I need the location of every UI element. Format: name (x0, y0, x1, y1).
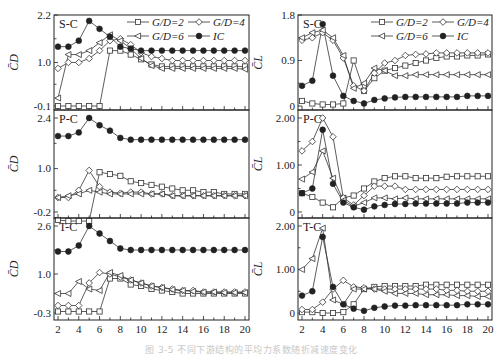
x-axis-label: Ur (145, 339, 159, 340)
x-tick-label: 14 (177, 323, 189, 335)
x-tick-label: 14 (421, 323, 433, 335)
y-axis-label: C̄D (7, 155, 21, 172)
panel-label: P-C (303, 112, 322, 126)
x-tick-label: 20 (240, 323, 252, 335)
x-tick-label: 8 (118, 323, 124, 335)
y-tick-label: 2.00 (276, 112, 296, 124)
panel-label: S-C (303, 17, 322, 31)
figure: -0.11.02.2C̄DS-CG/D=2G/D=4G/D=6IC-0.21.0… (0, 0, 503, 340)
y-tick-label: 0 (290, 100, 296, 112)
panel-label: P-C (59, 112, 78, 126)
x-tick-label: 4 (76, 323, 82, 335)
y-axis-label: C̄D (7, 260, 21, 277)
y-tick-label: 1.0 (37, 162, 51, 174)
x-tick-label: 10 (379, 323, 391, 335)
panel-left-s-c: -0.11.02.2C̄DS-CG/D=2G/D=4G/D=6IC (7, 9, 249, 112)
x-tick-label: 12 (156, 323, 167, 335)
legend-entry: G/D=6 (396, 30, 428, 42)
y-tick-label: 1.8 (281, 9, 295, 21)
legend-entry: G/D=4 (213, 16, 245, 28)
panel-label: T-C (59, 220, 77, 234)
x-tick-label: 2 (299, 323, 305, 335)
series-line (58, 118, 245, 140)
x-tick-label: 20 (483, 323, 495, 335)
y-tick-label: 2.2 (37, 9, 51, 21)
y-axis-label: C̄D (7, 54, 21, 71)
y-tick-label: 1.0 (37, 268, 51, 280)
legend-entry: IC (456, 30, 469, 42)
y-tick-label: 0.9 (281, 54, 295, 66)
y-axis-label: C̄L (251, 55, 265, 70)
x-tick-label: 8 (361, 323, 367, 335)
x-tick-label: 6 (97, 323, 103, 335)
x-tick-label: 10 (136, 323, 148, 335)
y-tick-label: 0 (290, 307, 296, 319)
y-tick-label: -0.3 (34, 307, 52, 319)
x-tick-label: 18 (462, 323, 474, 335)
y-tick-label: -0.1 (34, 100, 51, 112)
x-tick-label: 18 (219, 323, 231, 335)
x-tick-label: 6 (341, 323, 347, 335)
y-tick-label: 2.4 (37, 112, 51, 124)
x-tick-label: 12 (400, 323, 411, 335)
panel-left-p-c: -0.21.02.4C̄DP-C (7, 110, 249, 224)
y-axis-label: C̄L (251, 156, 265, 171)
x-tick-label: 16 (441, 323, 453, 335)
legend-entry: G/D=2 (396, 16, 428, 28)
y-tick-label: 1.00 (276, 159, 296, 171)
x-axis-label: Ur (388, 339, 402, 340)
y-axis-label: C̄L (251, 261, 265, 276)
y-tick-label: -0.2 (34, 206, 51, 218)
legend: G/D=2G/D=4G/D=6IC (371, 16, 489, 42)
x-tick-label: 16 (198, 323, 210, 335)
x-tick-label: 2 (55, 323, 61, 335)
y-tick-label: 2.6 (37, 220, 51, 232)
y-tick-label: 0 (290, 206, 296, 218)
legend-entry: G/D=4 (457, 16, 489, 28)
x-tick-label: 4 (320, 323, 326, 335)
legend-entry: G/D=6 (152, 30, 184, 42)
panel-right-p-c: 01.002.00C̄LP-C (251, 110, 492, 218)
y-tick-label: 2.00 (276, 220, 296, 232)
y-tick-label: 1.0 (37, 56, 51, 68)
panel-right-s-c: 00.91.8C̄LS-CG/D=2G/D=4G/D=6IC (251, 9, 492, 112)
y-tick-label: 1.00 (276, 263, 296, 275)
series-line (302, 118, 488, 205)
panel-label: S-C (59, 17, 78, 31)
legend: G/D=2G/D=4G/D=6IC (127, 16, 245, 42)
figure-caption: 图 3-5 不同下游结构的平均力系数随折减速度变化 (0, 343, 503, 356)
panel-label: T-C (303, 220, 321, 234)
legend-entry: IC (212, 30, 225, 42)
panel-right-t-c: 01.002.00C̄LT-C2468101214161820Ur (251, 218, 494, 340)
panel-left-t-c: -0.31.02.6C̄DT-C2468101214161820Ur (7, 218, 251, 340)
legend-entry: G/D=2 (152, 16, 184, 28)
